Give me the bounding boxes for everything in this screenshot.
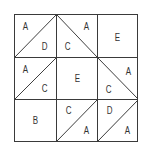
cell-r2-c1: C A (57, 100, 98, 141)
diagonal-line (98, 100, 138, 141)
cell-label: A (84, 22, 89, 32)
cell-label: B (33, 116, 38, 126)
cell-label: A (126, 67, 131, 77)
diagonal-line (15, 58, 56, 99)
cell-r1-c1: E (57, 58, 98, 100)
cell-r0-c0: A D (15, 15, 57, 58)
cell-label: A (23, 22, 28, 32)
diagonal-line (98, 58, 138, 99)
cell-r0-c1: A C (57, 15, 98, 58)
cell-r0-c2: E (98, 15, 138, 58)
cell-label: D (107, 106, 113, 116)
cell-label: C (106, 85, 112, 95)
cell-r2-c0: B (15, 100, 57, 141)
cell-label: C (65, 42, 71, 52)
cell-label: A (23, 65, 28, 75)
cell-label: E (115, 33, 120, 43)
cell-r2-c2: D A (98, 100, 138, 141)
diagonal-line (57, 100, 97, 141)
cell-r1-c0: A C (15, 58, 57, 100)
diagonal-line (15, 15, 56, 57)
cell-label: A (84, 126, 89, 136)
diagonal-line (57, 15, 97, 57)
cell-label: E (75, 74, 80, 84)
cell-label: A (125, 126, 130, 136)
cell-label: C (42, 84, 48, 94)
quilt-grid: A D A C E A C E A C B C A D A (14, 14, 138, 142)
cell-r1-c2: A C (98, 58, 138, 100)
cell-label: C (66, 106, 72, 116)
cell-label: D (42, 42, 48, 52)
